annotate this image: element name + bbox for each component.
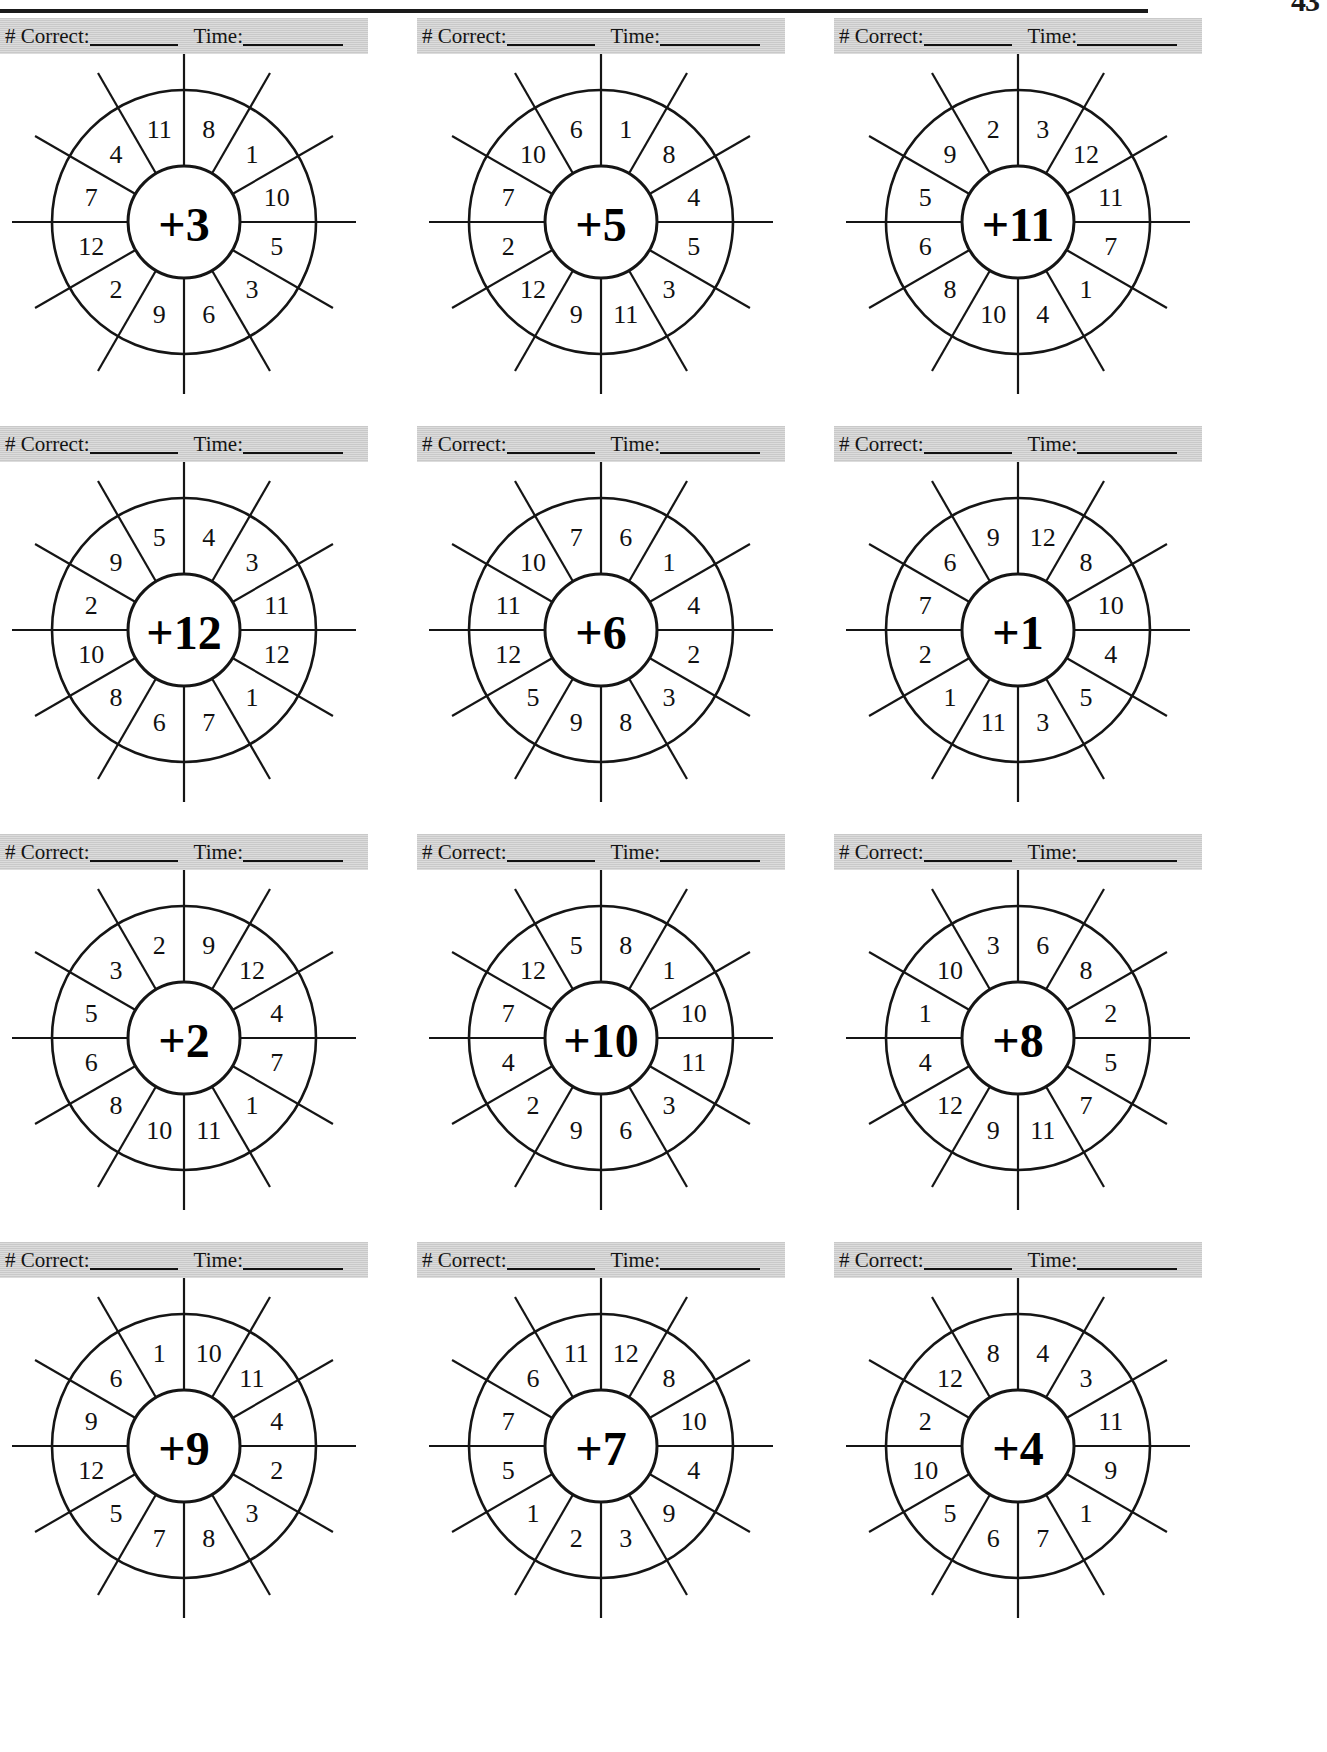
wheel-container: +2912471111086532 bbox=[0, 870, 368, 1230]
wheel-segment-number: 5 bbox=[944, 1499, 957, 1528]
fact-wheel: +9101142387512961 bbox=[0, 1278, 368, 1638]
correct-input[interactable] bbox=[90, 843, 178, 862]
wheel-segment-number: 9 bbox=[202, 931, 215, 960]
correct-input[interactable] bbox=[507, 1251, 595, 1270]
wheel-segment-number: 6 bbox=[110, 1364, 123, 1393]
wheel-segment-number: 7 bbox=[153, 1524, 166, 1553]
correct-input[interactable] bbox=[90, 435, 178, 454]
correct-input[interactable] bbox=[507, 27, 595, 46]
time-label: Time: bbox=[194, 840, 243, 865]
wheel-segment-number: 3 bbox=[662, 683, 675, 712]
wheel-segment-number: 6 bbox=[570, 115, 583, 144]
time-label: Time: bbox=[1028, 840, 1077, 865]
wheel-segment-number: 1 bbox=[1079, 275, 1092, 304]
wheel-cell: # Correct:Time:+12431112176810295 bbox=[0, 422, 409, 830]
correct-input[interactable] bbox=[90, 1251, 178, 1270]
time-input[interactable] bbox=[1077, 435, 1177, 454]
wheel-segment-number: 2 bbox=[919, 640, 932, 669]
wheel-spoke bbox=[515, 678, 573, 778]
wheel-segment-number: 12 bbox=[1030, 523, 1056, 552]
wheel-segment-number: 11 bbox=[1030, 1116, 1055, 1145]
time-input[interactable] bbox=[1077, 843, 1177, 862]
wheel-segment-number: 2 bbox=[110, 275, 123, 304]
wheel-segment-number: 11 bbox=[981, 708, 1006, 737]
wheel-container: +3811053692127411 bbox=[0, 54, 368, 414]
wheel-segment-number: 12 bbox=[1073, 140, 1099, 169]
wheel-center-operator: +10 bbox=[563, 1014, 638, 1067]
time-label: Time: bbox=[194, 1248, 243, 1273]
wheel-center-operator: +2 bbox=[158, 1014, 209, 1067]
time-label: Time: bbox=[194, 24, 243, 49]
correct-label: # Correct: bbox=[839, 1248, 924, 1273]
wheel-segment-number: 8 bbox=[202, 1524, 215, 1553]
correct-input[interactable] bbox=[924, 435, 1012, 454]
wheel-container: +9101142387512961 bbox=[0, 1278, 368, 1638]
correct-label: # Correct: bbox=[5, 1248, 90, 1273]
correct-input[interactable] bbox=[924, 27, 1012, 46]
wheel-segment-number: 4 bbox=[270, 1407, 283, 1436]
wheel-segment-number: 5 bbox=[502, 1456, 515, 1485]
wheel-container: +12431112176810295 bbox=[0, 462, 368, 822]
wheel-segment-number: 10 bbox=[681, 999, 707, 1028]
wheel-segment-number: 9 bbox=[1104, 1456, 1117, 1485]
fact-wheel: +1128104531112769 bbox=[834, 462, 1202, 822]
wheel-spoke bbox=[1046, 1297, 1104, 1397]
wheel-segment-number: 10 bbox=[264, 183, 290, 212]
correct-input[interactable] bbox=[507, 843, 595, 862]
wheel-spoke bbox=[1046, 678, 1104, 778]
wheel-spoke bbox=[629, 73, 687, 173]
wheel-segment-number: 9 bbox=[662, 1499, 675, 1528]
wheel-center-operator: +7 bbox=[575, 1422, 626, 1475]
wheel-segment-number: 8 bbox=[619, 931, 632, 960]
wheel-segment-number: 1 bbox=[245, 683, 258, 712]
wheel-container: +11312117141086592 bbox=[834, 54, 1202, 414]
correct-label: # Correct: bbox=[5, 24, 90, 49]
wheel-spoke bbox=[1046, 1494, 1104, 1594]
time-input[interactable] bbox=[660, 1251, 760, 1270]
wheel-spoke bbox=[212, 73, 270, 173]
wheel-segment-number: 4 bbox=[202, 523, 215, 552]
correct-input[interactable] bbox=[90, 27, 178, 46]
correct-input[interactable] bbox=[924, 1251, 1012, 1270]
time-input[interactable] bbox=[660, 435, 760, 454]
time-input[interactable] bbox=[243, 1251, 343, 1270]
time-label: Time: bbox=[611, 432, 660, 457]
wheel-segment-number: 6 bbox=[153, 708, 166, 737]
fact-wheel: +8682571191241103 bbox=[834, 870, 1202, 1230]
wheel-segment-number: 12 bbox=[613, 1339, 639, 1368]
fact-wheel: +5184531191227106 bbox=[417, 54, 785, 414]
wheel-segment-number: 2 bbox=[687, 640, 700, 669]
correct-input[interactable] bbox=[924, 843, 1012, 862]
wheel-segment-number: 7 bbox=[919, 591, 932, 620]
time-input[interactable] bbox=[243, 435, 343, 454]
wheel-segment-number: 11 bbox=[613, 300, 638, 329]
correct-label: # Correct: bbox=[422, 24, 507, 49]
time-input[interactable] bbox=[243, 843, 343, 862]
score-band: # Correct:Time: bbox=[0, 426, 368, 462]
wheel-segment-number: 3 bbox=[110, 956, 123, 985]
time-input[interactable] bbox=[1077, 27, 1177, 46]
wheel-spoke bbox=[98, 270, 156, 370]
wheel-segment-number: 1 bbox=[245, 1091, 258, 1120]
wheel-segment-number: 7 bbox=[570, 523, 583, 552]
correct-label: # Correct: bbox=[5, 432, 90, 457]
wheel-segment-number: 5 bbox=[85, 999, 98, 1028]
wheel-cell: # Correct:Time:+2912471111086532 bbox=[0, 830, 409, 1238]
fact-wheel: +12431112176810295 bbox=[0, 462, 368, 822]
wheel-segment-number: 11 bbox=[147, 115, 172, 144]
score-band: # Correct:Time: bbox=[834, 426, 1202, 462]
time-input[interactable] bbox=[660, 27, 760, 46]
time-input[interactable] bbox=[1077, 1251, 1177, 1270]
score-band: # Correct:Time: bbox=[0, 18, 368, 54]
time-label: Time: bbox=[611, 840, 660, 865]
correct-label: # Correct: bbox=[839, 432, 924, 457]
wheel-spoke bbox=[212, 481, 270, 581]
wheel-segment-number: 8 bbox=[202, 115, 215, 144]
wheel-segment-number: 5 bbox=[1079, 683, 1092, 712]
correct-input[interactable] bbox=[507, 435, 595, 454]
wheel-cell: # Correct:Time:+10811011369247125 bbox=[409, 830, 818, 1238]
time-input[interactable] bbox=[243, 27, 343, 46]
wheel-container: +1128104531112769 bbox=[834, 462, 1202, 822]
time-input[interactable] bbox=[660, 843, 760, 862]
wheel-segment-number: 6 bbox=[85, 1048, 98, 1077]
